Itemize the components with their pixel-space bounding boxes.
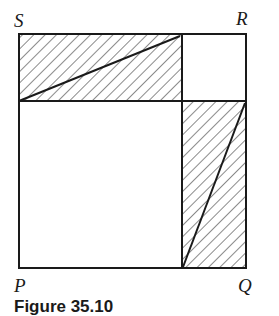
label-s: S xyxy=(14,11,24,30)
label-p: P xyxy=(14,276,26,295)
label-r: R xyxy=(236,9,248,28)
figure-caption: Figure 35.10 xyxy=(14,298,113,315)
label-q: Q xyxy=(238,276,252,295)
